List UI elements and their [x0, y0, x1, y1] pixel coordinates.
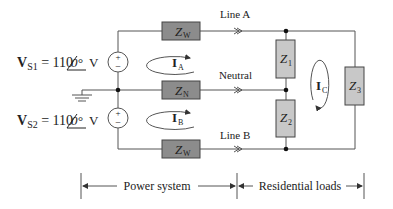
vs2-label: VS2 = 110 0° V: [17, 113, 99, 130]
svg-text:3: 3: [357, 86, 361, 95]
svg-text:C: C: [322, 86, 327, 95]
svg-text:I: I: [172, 110, 177, 125]
svg-text:V: V: [89, 55, 99, 70]
svg-text:VS2 = 110: VS2 = 110: [17, 113, 73, 130]
loop-current-ic: I C: [311, 60, 329, 108]
residential-loads-label: Residential loads: [259, 179, 342, 193]
svg-text:VS1 = 110: VS1 = 110: [17, 55, 73, 72]
svg-text:0°: 0°: [71, 113, 83, 128]
impedance-zn: Z N: [162, 81, 200, 99]
line-a-label: Line A: [220, 8, 250, 20]
svg-text:Z: Z: [175, 142, 183, 157]
vs1-label: VS1 = 110 0° V: [17, 55, 99, 72]
loop-current-ib: I B: [147, 110, 194, 130]
svg-text:Z: Z: [175, 83, 183, 98]
source-vs2: + −: [108, 108, 128, 128]
svg-text:A: A: [178, 63, 184, 72]
impedance-z2: Z 2: [276, 100, 295, 137]
svg-text:Z: Z: [280, 110, 288, 125]
loop-current-ia: I A: [147, 55, 194, 75]
source-vs1: + −: [108, 52, 128, 72]
svg-text:I: I: [172, 55, 177, 70]
svg-text:V: V: [89, 113, 99, 128]
svg-text:N: N: [183, 90, 189, 99]
svg-text:−: −: [115, 117, 121, 128]
impedance-zw-top: Z W: [162, 22, 200, 40]
impedance-z1: Z 1: [276, 40, 295, 78]
neutral-label: Neutral: [219, 69, 252, 81]
svg-text:1: 1: [288, 59, 292, 68]
circuit-diagram: + − + − VS1 = 110 0° V VS2 = 110 0° V Z …: [0, 0, 393, 209]
svg-text:2: 2: [288, 118, 292, 127]
impedance-z3: Z 3: [345, 67, 364, 105]
svg-text:Z: Z: [349, 78, 357, 93]
svg-text:W: W: [183, 149, 191, 158]
svg-text:Z: Z: [280, 51, 288, 66]
line-b-label: Line B: [220, 129, 250, 141]
svg-text:B: B: [178, 118, 183, 127]
svg-text:Z: Z: [175, 24, 183, 39]
svg-text:−: −: [115, 61, 121, 72]
wires: [72, 31, 355, 149]
section-dimensions: Power system Residential loads: [81, 173, 364, 199]
svg-text:I: I: [316, 78, 321, 93]
power-system-label: Power system: [124, 179, 192, 193]
svg-text:W: W: [183, 31, 191, 40]
svg-text:0°: 0°: [71, 55, 83, 70]
impedance-zw-bottom: Z W: [162, 140, 200, 158]
